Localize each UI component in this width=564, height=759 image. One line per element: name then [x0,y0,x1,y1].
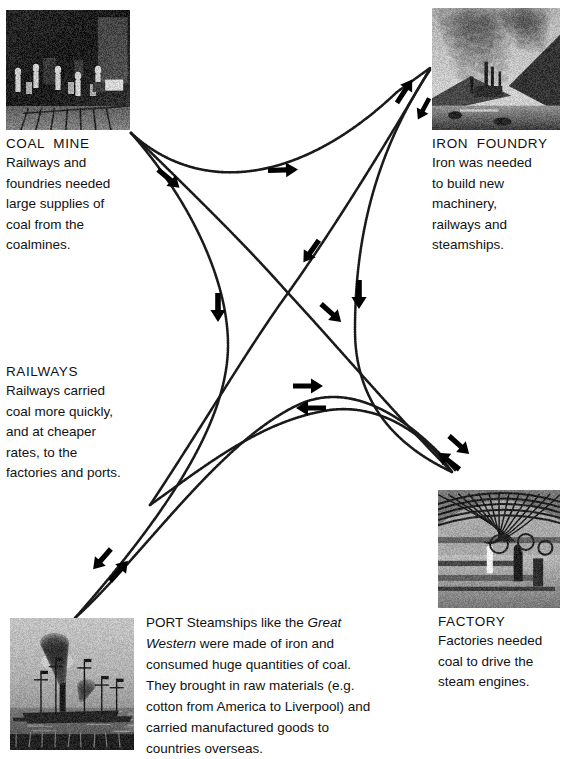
line-coalmine-factory [131,133,452,472]
port-italic-great: Great [308,615,342,630]
coal-mine-desc-line: large supplies of [6,194,138,215]
port-image [10,618,134,750]
arrow-foundry-railways [297,236,324,266]
factory-desc-line: Factories needed [438,631,564,652]
port-line1-text: PORT Steamships like the [146,615,308,630]
iron-foundry-image [432,8,560,130]
factory-desc-line: steam engines. [438,672,564,693]
coal-mine-engraving [6,10,130,130]
port-steamship-engraving [10,618,134,750]
port-paragraph-line-7: countries overseas. [146,738,446,759]
railways-desc-line: rates, to the [6,443,156,464]
factory-image [438,490,560,608]
node-railways[interactable]: RAILWAYS Railways carried coal more quic… [6,358,156,484]
port-paragraph-line-4: They brought in raw materials (e.g. [146,675,446,696]
line-foundry-railways [150,72,428,505]
port-paragraph-line-2: Western were made of iron and [146,633,446,654]
railways-description: Railways carried coal more quickly, and … [6,381,156,484]
arrow-foundry-port [351,280,366,309]
coal-mine-desc-line: foundries needed [6,174,138,195]
port-paragraph-line-6: carried manufactured goods to [146,717,446,738]
factory-description: Factories needed coal to drive the steam… [438,631,564,693]
coal-mine-description: Railways and foundries needed large supp… [6,153,138,256]
iron-foundry-desc-line: machinery, [432,194,564,215]
port-italic-western: Western [146,636,196,651]
factory-label: FACTORY [438,612,564,631]
iron-foundry-desc-line: Iron was needed [432,153,564,174]
arrow-railways-port [293,379,323,394]
diagram-page: COAL MINE Railways and foundries needed … [0,0,564,759]
port-line2-text: were made of iron and [196,636,334,651]
factory-desc-line: coal to drive the [438,652,564,673]
railways-desc-line: factories and ports. [6,463,156,484]
iron-foundry-desc-line: steamships. [432,235,564,256]
arrow-coalmine-factory [316,299,346,328]
railways-desc-line: coal more quickly, [6,402,156,423]
factory-interior-photo [438,490,560,608]
coal-mine-image [6,10,130,130]
node-factory[interactable]: FACTORY Factories needed coal to drive t… [438,490,564,693]
iron-foundry-desc-line: railways and [432,215,564,236]
iron-foundry-desc-line: to build new [432,174,564,195]
node-port[interactable] [10,618,138,750]
port-paragraph-line-1: PORT Steamships like the Great [146,612,446,633]
coal-mine-desc-line: coal from the [6,215,138,236]
coal-mine-desc-line: Railways and [6,153,138,174]
arrow-to-port [88,544,117,574]
port-paragraph: PORT Steamships like the Great Western w… [146,612,446,759]
coal-mine-label: COAL MINE [6,134,138,153]
iron-foundry-label: IRON FOUNDRY [432,134,564,153]
iron-foundry-description: Iron was needed to build new machinery, … [432,153,564,256]
node-iron-foundry[interactable]: IRON FOUNDRY Iron was needed to build ne… [432,8,564,256]
coal-mine-desc-line: coalmines. [6,235,138,256]
railways-label: RAILWAYS [6,362,156,381]
port-paragraph-line-5: cotton from America to Liverpool) and [146,696,446,717]
iron-foundry-engraving [432,8,560,130]
port-paragraph-line-3: consumed huge quantities of coal. [146,654,446,675]
railways-desc-line: and at cheaper [6,422,156,443]
node-coal-mine[interactable]: COAL MINE Railways and foundries needed … [6,10,138,256]
railways-desc-line: Railways carried [6,381,156,402]
